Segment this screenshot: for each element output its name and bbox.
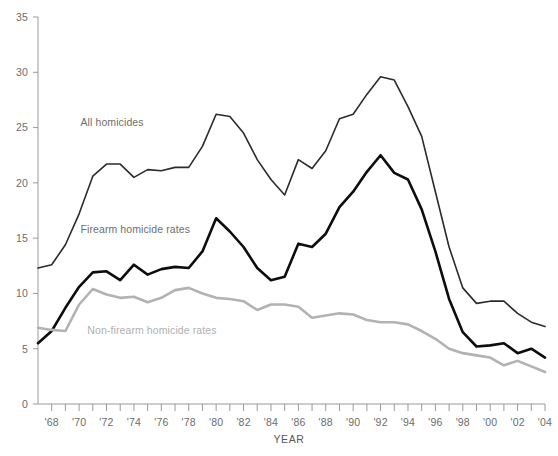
y-tick-label: 10 — [16, 287, 28, 299]
homicide-rates-chart: 05101520253035 '68'70'72'74'76'78'80'82'… — [0, 0, 558, 456]
x-tick-label: '70 — [72, 416, 86, 428]
x-tick-label: '76 — [154, 416, 168, 428]
x-tick-label: '82 — [236, 416, 250, 428]
y-tick-label: 0 — [22, 398, 28, 410]
x-tick-label: '86 — [291, 416, 305, 428]
y-tick-label: 15 — [16, 232, 28, 244]
y-tick-label: 5 — [22, 343, 28, 355]
series-label: All homicides — [80, 116, 143, 128]
y-tick-label: 30 — [16, 66, 28, 78]
x-tick-label: '84 — [264, 416, 278, 428]
x-tick-label: '90 — [346, 416, 360, 428]
x-tick-label: '92 — [373, 416, 387, 428]
x-tick-label: '04 — [538, 416, 552, 428]
chart-svg: 05101520253035 '68'70'72'74'76'78'80'82'… — [0, 0, 558, 456]
y-tick-label: 35 — [16, 11, 28, 23]
series-line — [38, 77, 545, 327]
series-label: Non-firearm homicide rates — [87, 324, 216, 336]
x-axis: '68'70'72'74'76'78'80'82'84'86'88'90'92'… — [38, 404, 552, 428]
y-axis: 05101520253035 — [16, 11, 38, 410]
y-tick-label: 25 — [16, 121, 28, 133]
x-tick-label: '96 — [428, 416, 442, 428]
x-axis-title: YEAR — [274, 433, 305, 445]
x-tick-label: '94 — [401, 416, 415, 428]
x-tick-label: '00 — [483, 416, 497, 428]
series-label: Firearm homicide rates — [80, 223, 190, 235]
y-tick-label: 20 — [16, 177, 28, 189]
x-tick-label: '68 — [45, 416, 59, 428]
series-labels: All homicidesFirearm homicide ratesNon-f… — [80, 116, 216, 336]
x-tick-label: '72 — [99, 416, 113, 428]
x-tick-label: '02 — [510, 416, 524, 428]
x-tick-label: '98 — [456, 416, 470, 428]
x-tick-label: '80 — [209, 416, 223, 428]
x-tick-label: '88 — [319, 416, 333, 428]
x-tick-label: '78 — [182, 416, 196, 428]
x-tick-label: '74 — [127, 416, 141, 428]
